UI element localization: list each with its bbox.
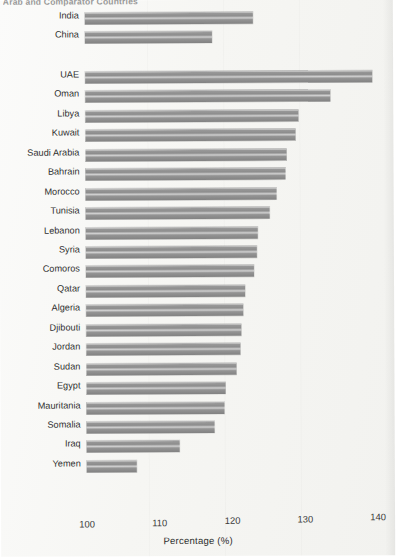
bar — [86, 246, 257, 259]
bar — [87, 421, 215, 434]
bar-category-label: Sudan — [0, 361, 80, 372]
bar-row: Sudan — [0, 362, 394, 375]
bar — [86, 343, 240, 356]
bar-category-label: UAE — [0, 69, 79, 80]
bar-category-label: Lebanon — [0, 225, 80, 236]
bar-category-label: Iraq — [0, 439, 81, 450]
bar — [87, 460, 137, 472]
bar-row: Morocco — [0, 187, 394, 200]
bar-row: Saudi Arabia — [0, 148, 393, 161]
bar — [87, 441, 180, 453]
bar-category-label: Yemen — [0, 458, 81, 469]
bar — [86, 285, 245, 298]
bar-row: Djibouti — [0, 323, 394, 336]
bar-category-label: Djibouti — [0, 322, 80, 333]
bar-category-label: Comoros — [0, 264, 80, 275]
bar — [86, 265, 254, 278]
x-axis: 100110120130140 — [1, 511, 395, 531]
bar-category-label: Morocco — [0, 186, 80, 197]
x-axis-tick-label: 130 — [285, 513, 325, 524]
bar-category-label: Oman — [0, 89, 79, 100]
bar-row: India — [0, 11, 393, 24]
bar — [86, 207, 270, 220]
bar-row: Syria — [0, 245, 394, 258]
bar-row: Kuwait — [0, 128, 393, 141]
x-axis-tick-label: 120 — [213, 515, 253, 526]
bar — [86, 362, 236, 375]
bar-row: Bahrain — [0, 167, 394, 180]
bar — [86, 226, 258, 239]
bar-category-label: Qatar — [0, 283, 80, 294]
bar-category-label: Egypt — [0, 381, 80, 392]
bar — [85, 31, 212, 44]
page-edge-shadow — [383, 0, 395, 555]
bar-category-label: Algeria — [0, 303, 80, 314]
bar — [85, 129, 295, 142]
bar — [85, 12, 253, 25]
bar-row: Jordan — [0, 342, 394, 355]
bar-category-label: Mauritania — [0, 400, 81, 411]
bar-category-label: Somalia — [0, 420, 81, 431]
bar-row: Algeria — [0, 303, 394, 316]
bar-category-label: Bahrain — [0, 167, 80, 178]
x-axis-label: Percentage (%) — [1, 534, 395, 547]
bar-row: Iraq — [1, 440, 395, 453]
bar — [85, 90, 330, 103]
bar-row: UAE — [0, 70, 393, 83]
bar-category-label: Saudi Arabia — [0, 147, 79, 158]
bar-category-label: Tunisia — [0, 206, 80, 217]
bar — [86, 187, 277, 200]
bar-row: Oman — [0, 89, 393, 102]
bar — [86, 168, 286, 181]
bar-row: Libya — [0, 109, 393, 122]
bar — [85, 70, 372, 83]
bar — [86, 382, 225, 395]
bar-row: Somalia — [1, 420, 395, 433]
plot-area: IndiaChinaUAEOmanLibyaKuwaitSaudi Arabia… — [0, 5, 395, 507]
bar-row: Mauritania — [1, 401, 395, 414]
bar — [87, 401, 225, 414]
bar-row: China — [0, 31, 393, 44]
bar-category-label: Libya — [0, 108, 79, 119]
x-axis-tick-label: 100 — [67, 518, 107, 529]
bar-row: Yemen — [1, 459, 395, 472]
bar — [85, 148, 286, 161]
bar-category-label: Syria — [0, 244, 80, 255]
bar-category-label: Kuwait — [0, 128, 79, 139]
bar — [86, 324, 241, 337]
bar-category-label: China — [0, 30, 79, 41]
bar-row: Tunisia — [0, 206, 394, 219]
bar-row: Egypt — [0, 381, 394, 394]
bar-category-label: India — [0, 11, 79, 22]
bar-chart-figure: Arab and Comparator Countries IndiaChina… — [0, 0, 395, 557]
x-axis-tick-label: 110 — [140, 517, 180, 528]
bar-category-label: Jordan — [0, 342, 80, 353]
bar — [85, 109, 298, 122]
bar-row: Comoros — [0, 265, 394, 278]
bar-row: Qatar — [0, 284, 394, 297]
bar — [86, 304, 243, 317]
bar-row: Lebanon — [0, 226, 394, 239]
